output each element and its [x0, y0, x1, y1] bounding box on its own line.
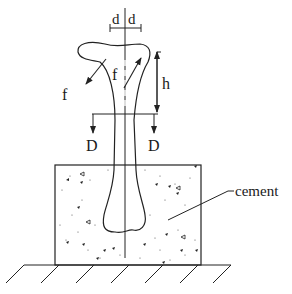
cement-label: cement — [235, 183, 279, 199]
bone-in-cement-diagram: d d f f h D D cement — [0, 0, 292, 294]
d-left-label: d — [112, 11, 120, 27]
h-dimension — [157, 52, 161, 112]
force-arrow-outer — [86, 59, 106, 84]
D-right-label: D — [148, 137, 160, 154]
ground-hatching — [6, 265, 231, 283]
f-outer-label: f — [62, 86, 68, 103]
D-left-label: D — [86, 137, 98, 154]
d-right-label: d — [128, 11, 136, 27]
h-label: h — [162, 75, 170, 92]
force-arrow-inner — [124, 58, 141, 88]
f-inner-label: f — [112, 66, 118, 83]
